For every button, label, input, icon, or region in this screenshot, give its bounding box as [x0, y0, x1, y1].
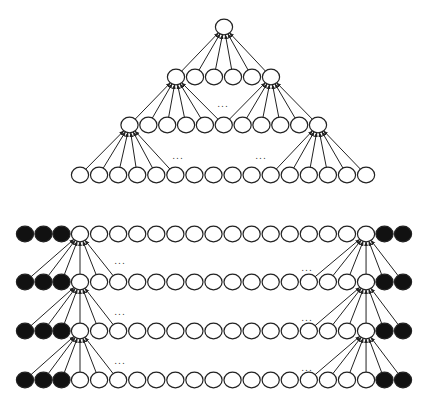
- layer-node: [148, 372, 165, 388]
- tree-node: [186, 69, 203, 85]
- tree-node: [234, 117, 251, 133]
- layer-node: [129, 372, 146, 388]
- padding-node: [16, 372, 33, 388]
- ellipsis-text: ...: [217, 99, 229, 109]
- padding-node: [394, 372, 411, 388]
- layer-node: [357, 226, 374, 242]
- layer-node: [243, 372, 260, 388]
- padding-node: [16, 226, 33, 242]
- tree-node: [272, 117, 289, 133]
- tree-node: [338, 167, 355, 183]
- ellipsis-text: ...: [301, 263, 313, 273]
- layer-node: [148, 226, 165, 242]
- layer-node: [129, 274, 146, 290]
- arrow-edge: [31, 287, 74, 325]
- layer-node: [148, 274, 165, 290]
- padding-node: [53, 274, 70, 290]
- padding-node: [394, 226, 411, 242]
- tree-node: [291, 117, 308, 133]
- arrow-edge: [324, 131, 361, 169]
- layer-node: [90, 226, 107, 242]
- layer-node: [243, 274, 260, 290]
- arrow-edge: [169, 85, 175, 118]
- layer-node: [300, 372, 317, 388]
- arrow-edge: [131, 133, 136, 168]
- tree-node: [262, 167, 279, 183]
- layer-node: [338, 323, 355, 339]
- tree-node: [71, 167, 88, 183]
- layer-node: [90, 274, 107, 290]
- layer-node: [110, 274, 127, 290]
- padding-node: [35, 274, 52, 290]
- layer-node: [300, 274, 317, 290]
- padding-node: [376, 323, 393, 339]
- layer-node: [205, 323, 222, 339]
- tree-node: [262, 69, 279, 85]
- layer-node: [262, 274, 279, 290]
- tree-node: [196, 117, 213, 133]
- arrow-edge: [315, 336, 360, 374]
- ellipsis-text: ...: [301, 363, 313, 373]
- padding-node: [376, 226, 393, 242]
- layer-node: [167, 226, 184, 242]
- tree-node: [167, 167, 184, 183]
- layer-node: [300, 323, 317, 339]
- layer-ellipses: ..................: [114, 256, 313, 373]
- layer-node: [319, 274, 336, 290]
- arrow-edge: [315, 287, 360, 325]
- layer-node: [148, 323, 165, 339]
- layer-node: [167, 372, 184, 388]
- tree-node: [224, 167, 241, 183]
- padding-node: [394, 274, 411, 290]
- layer-node: [281, 274, 298, 290]
- layer-edges: [31, 239, 398, 374]
- diagram-canvas: ......... ..................: [0, 0, 430, 403]
- layer-node: [110, 372, 127, 388]
- tree-node: [121, 117, 138, 133]
- layer-node: [243, 226, 260, 242]
- layer-node: [110, 323, 127, 339]
- layer-node: [281, 323, 298, 339]
- arrow-edge: [86, 131, 124, 169]
- padding-node: [53, 323, 70, 339]
- padding-node: [35, 372, 52, 388]
- layer-node: [262, 226, 279, 242]
- arrow-edge: [182, 83, 218, 119]
- padding-node: [35, 323, 52, 339]
- tree-node: [319, 167, 336, 183]
- tree-node: [224, 69, 241, 85]
- padding-node: [394, 323, 411, 339]
- padding-node: [16, 323, 33, 339]
- padding-node: [35, 226, 52, 242]
- layer-node: [338, 372, 355, 388]
- arrow-edge: [230, 33, 266, 71]
- layer-node: [71, 226, 88, 242]
- padding-node: [376, 372, 393, 388]
- layer-node: [129, 323, 146, 339]
- layer-node: [243, 323, 260, 339]
- ellipsis-text: ...: [255, 151, 267, 161]
- tree-node: [177, 117, 194, 133]
- tree-node: [205, 69, 222, 85]
- layer-node: [71, 323, 88, 339]
- arrow-edge: [229, 83, 265, 119]
- tree-node: [186, 167, 203, 183]
- padding-node: [53, 226, 70, 242]
- tree-node: [167, 69, 184, 85]
- layer-node: [338, 226, 355, 242]
- tree-node: [243, 69, 260, 85]
- layered-window-diagram: ..................: [16, 226, 411, 388]
- tree-node: [309, 117, 326, 133]
- arrow-edge: [133, 132, 152, 168]
- tree-node: [148, 167, 165, 183]
- layer-node: [90, 323, 107, 339]
- layer-node: [338, 274, 355, 290]
- tree-node: [159, 117, 176, 133]
- tree-node: [215, 19, 232, 35]
- layer-node: [224, 372, 241, 388]
- layer-node: [319, 226, 336, 242]
- tree-node: [90, 167, 107, 183]
- ellipsis-text: ...: [114, 256, 126, 266]
- layer-node: [167, 323, 184, 339]
- layer-node: [357, 372, 374, 388]
